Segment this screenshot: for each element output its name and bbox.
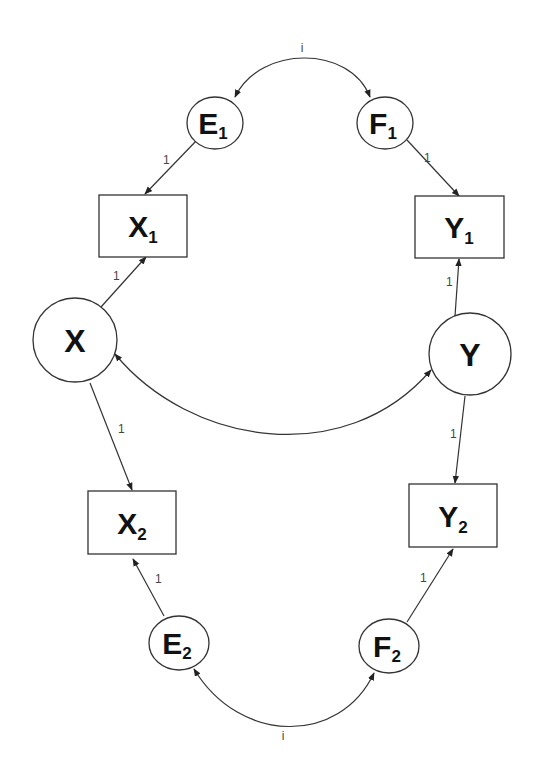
edge-label-y-y2: 1 bbox=[450, 427, 457, 441]
node-y1-letter: Y bbox=[444, 211, 464, 244]
edge-e2-to-x2 bbox=[133, 559, 164, 616]
node-x2-letter: X bbox=[117, 507, 137, 540]
edge-label-x-x1: 1 bbox=[113, 269, 120, 283]
node-y2-subscript: 2 bbox=[458, 518, 467, 537]
node-x2-subscript: 2 bbox=[137, 525, 146, 544]
node-x-letter: X bbox=[64, 323, 86, 359]
edge-label-f2-y2: 1 bbox=[420, 571, 427, 585]
node-y-letter: Y bbox=[459, 337, 480, 373]
node-e2-letter: E bbox=[162, 627, 182, 660]
edge-x-y-covariance bbox=[115, 354, 431, 434]
node-y1: Y1 bbox=[415, 196, 504, 258]
edge-f1-to-y1 bbox=[407, 140, 459, 196]
edge-label-y-y1: 1 bbox=[446, 275, 453, 289]
edge-x-to-x1 bbox=[101, 257, 146, 307]
edge-e1-to-x1 bbox=[145, 140, 197, 194]
node-y2-letter: Y bbox=[438, 500, 458, 533]
node-y-latent: Y bbox=[429, 313, 511, 395]
node-f1-letter: F bbox=[369, 107, 387, 140]
node-x1: X1 bbox=[99, 195, 187, 257]
edge-label-e2-x2: 1 bbox=[155, 572, 162, 586]
edge-label-f1-y1: 1 bbox=[424, 151, 431, 165]
node-e1: E1 bbox=[187, 97, 243, 149]
node-e1-letter: E bbox=[198, 107, 218, 140]
node-e2-subscript: 2 bbox=[182, 644, 191, 663]
edge-label-x-x2: 1 bbox=[118, 422, 125, 436]
node-y2: Y2 bbox=[409, 484, 497, 547]
node-x1-subscript: 1 bbox=[148, 228, 157, 247]
edge-y-to-y1 bbox=[455, 259, 459, 316]
edge-x-to-x2 bbox=[90, 383, 132, 490]
node-x1-letter: X bbox=[128, 210, 148, 243]
node-x-latent: X bbox=[33, 298, 117, 382]
edge-label-e1-f1: i bbox=[301, 41, 304, 55]
node-f1-subscript: 1 bbox=[387, 124, 396, 143]
path-diagram: i 1 1 1 1 1 1 1 1 i E1 F1 bbox=[0, 0, 540, 771]
node-f2-subscript: 2 bbox=[391, 647, 400, 666]
node-f2: F2 bbox=[359, 619, 419, 673]
edge-label-e1-x1: 1 bbox=[163, 153, 170, 167]
node-f1: F1 bbox=[357, 97, 413, 149]
node-e2: E2 bbox=[149, 616, 209, 670]
node-f2-letter: F bbox=[373, 630, 391, 663]
node-y1-subscript: 1 bbox=[464, 229, 473, 248]
edge-label-e2-f2: i bbox=[282, 729, 285, 743]
node-e1-subscript: 1 bbox=[218, 124, 227, 143]
node-x2: X2 bbox=[88, 491, 176, 554]
edge-f2-to-y2 bbox=[407, 549, 453, 622]
edge-e2-f2-covariance bbox=[194, 669, 374, 727]
edge-e1-f1-covariance bbox=[235, 58, 370, 97]
